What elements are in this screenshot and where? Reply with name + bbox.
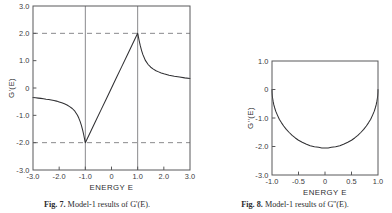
y-tick-label-3: 0 bbox=[25, 84, 29, 93]
figure-area: -3.0-2.0-1.001.02.03.03.02.01.00-1.0-2.0… bbox=[0, 0, 392, 213]
x-axis-title: ENERGY E bbox=[90, 183, 134, 192]
y-tick-label-3: -2.0 bbox=[255, 142, 268, 151]
caption-text-left: Model-1 results of G'(E). bbox=[68, 200, 150, 209]
chart-g-prime: -3.0-2.0-1.001.02.03.03.02.01.00-1.0-2.0… bbox=[0, 0, 196, 200]
y-axis-title: G'(E) bbox=[7, 78, 16, 98]
chart-g-double-prime: -1.0-0.500.51.01.00-1.0-2.0-3.0ENERGY EG… bbox=[196, 0, 392, 200]
y-tick-label-4: -1.0 bbox=[16, 111, 29, 120]
x-tick-label-1: -0.5 bbox=[292, 177, 305, 186]
y-tick-label-4: -3.0 bbox=[255, 171, 268, 180]
x-tick-label-2: -1.0 bbox=[79, 172, 92, 181]
figure-caption-left: Fig. 7. Model-1 results of G'(E). bbox=[2, 200, 192, 209]
x-tick-label-4: 1.0 bbox=[132, 172, 143, 181]
caption-label-right: Fig. 8. bbox=[241, 200, 263, 209]
data-curve-0 bbox=[33, 33, 190, 142]
figure-panel-left: -3.0-2.0-1.001.02.03.03.02.01.00-1.0-2.0… bbox=[0, 0, 196, 200]
caption-label-left: Fig. 7. bbox=[44, 200, 66, 209]
y-tick-label-0: 3.0 bbox=[19, 2, 30, 11]
x-tick-label-2: 0 bbox=[323, 177, 327, 186]
y-tick-label-0: 1.0 bbox=[258, 57, 269, 66]
x-tick-label-6: 3.0 bbox=[185, 172, 196, 181]
caption-text-right: Model-1 results of G''(E). bbox=[265, 200, 349, 209]
figure-caption-right: Fig. 8. Model-1 results of G''(E). bbox=[200, 200, 390, 209]
y-axis-title: G''(E) bbox=[246, 107, 255, 129]
x-axis-title: ENERGY E bbox=[303, 188, 347, 197]
figure-panel-right: -1.0-0.500.51.01.00-1.0-2.0-3.0ENERGY EG… bbox=[196, 0, 392, 200]
data-curve-0 bbox=[272, 90, 378, 148]
x-tick-label-3: 0.5 bbox=[346, 177, 357, 186]
y-tick-label-6: -3.0 bbox=[16, 166, 29, 175]
plot-frame bbox=[272, 61, 378, 175]
x-tick-label-4: 1.0 bbox=[373, 177, 384, 186]
x-tick-label-5: 2.0 bbox=[159, 172, 170, 181]
y-tick-label-1: 2.0 bbox=[19, 29, 30, 38]
x-tick-label-3: 0 bbox=[109, 172, 113, 181]
y-tick-label-2: -1.0 bbox=[255, 114, 268, 123]
y-tick-label-2: 1.0 bbox=[19, 56, 30, 65]
y-tick-label-5: -2.0 bbox=[16, 138, 29, 147]
y-tick-label-1: 0 bbox=[264, 85, 268, 94]
x-tick-label-1: -2.0 bbox=[53, 172, 66, 181]
